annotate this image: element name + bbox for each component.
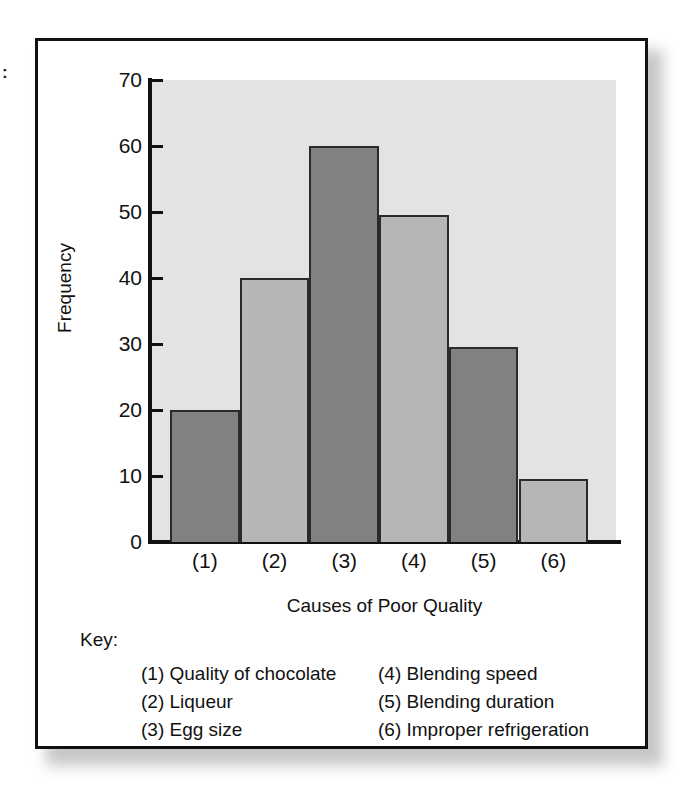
y-axis-tick-label: 70 — [100, 69, 142, 90]
bar-chart: 706050403020100 Frequency (1)(2)(3)(4)(5… — [38, 41, 645, 746]
y-axis-tick-label: 10 — [100, 465, 142, 486]
y-axis-tick — [152, 475, 163, 478]
key-row: (2) Liqueur(5) Blending duration — [141, 689, 621, 717]
bar — [449, 347, 519, 542]
bar — [240, 278, 310, 542]
y-axis-tick — [152, 409, 163, 412]
y-axis-tick-label: 30 — [100, 333, 142, 354]
key-item: (4) Blending speed — [378, 661, 621, 686]
key-item: (1) Quality of chocolate — [141, 661, 378, 686]
y-axis-tick-label: 20 — [100, 399, 142, 420]
y-axis-tick-label: 0 — [100, 531, 142, 552]
key-item: (6) Improper refrigeration — [378, 717, 621, 742]
bar — [379, 215, 449, 542]
bar — [170, 410, 240, 542]
key-item: (3) Egg size — [141, 717, 378, 742]
y-axis-tick — [152, 211, 163, 214]
key-list: (1) Quality of chocolate(4) Blending spe… — [141, 661, 621, 745]
key-item: (2) Liqueur — [141, 689, 378, 714]
page-edge-ink-artifact: : — [2, 68, 7, 86]
bar — [309, 146, 379, 542]
key-row: (1) Quality of chocolate(4) Blending spe… — [141, 661, 621, 689]
y-axis-tick-label: 60 — [100, 135, 142, 156]
key-row: (3) Egg size(6) Improper refrigeration — [141, 717, 621, 745]
x-axis-category-label: (4) — [379, 549, 449, 573]
key-item: (5) Blending duration — [378, 689, 621, 714]
x-axis-category-label: (5) — [449, 549, 519, 573]
x-axis-category-label: (6) — [519, 549, 589, 573]
y-axis-tick-label: 40 — [100, 267, 142, 288]
y-axis-tick — [152, 79, 163, 82]
y-axis-tick — [152, 541, 163, 544]
x-axis-category-label: (2) — [240, 549, 310, 573]
figure-frame: 706050403020100 Frequency (1)(2)(3)(4)(5… — [35, 38, 648, 749]
x-axis-category-label: (3) — [309, 549, 379, 573]
y-axis-tick-label: 50 — [100, 201, 142, 222]
y-axis-tick — [152, 343, 163, 346]
y-axis-tick — [152, 277, 163, 280]
bar — [519, 479, 589, 542]
y-axis-tick — [152, 145, 163, 148]
y-axis-title: Frequency — [54, 223, 76, 353]
x-axis-category-label: (1) — [170, 549, 240, 573]
x-axis-title: Causes of Poor Quality — [148, 595, 621, 617]
key-heading: Key: — [80, 629, 118, 651]
